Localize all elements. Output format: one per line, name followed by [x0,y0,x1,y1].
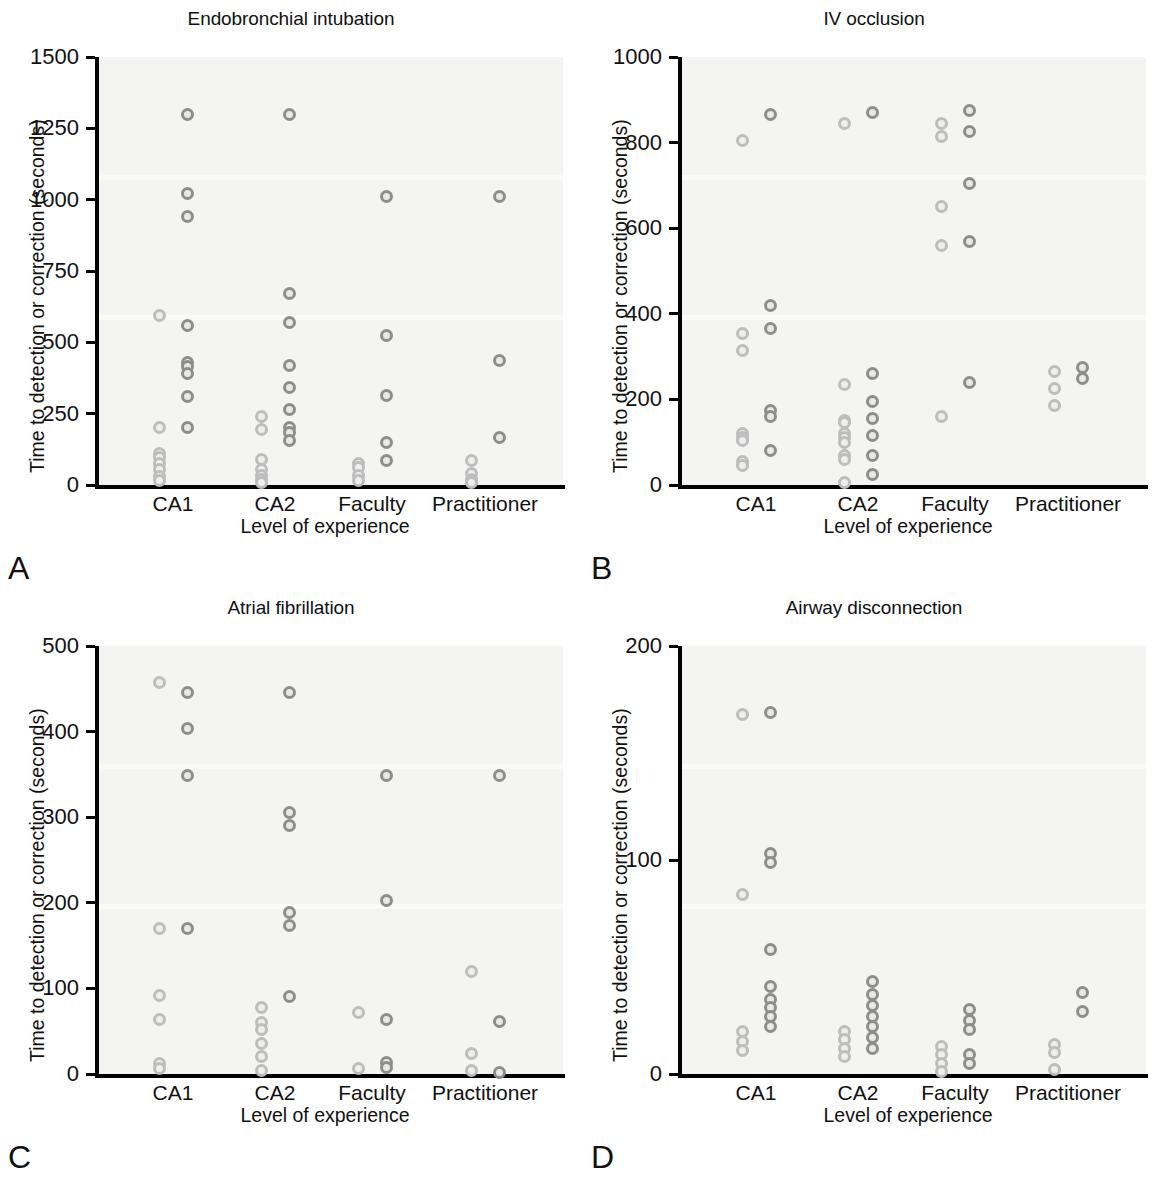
data-point [866,975,879,988]
data-point [764,410,777,423]
data-point [838,378,851,391]
data-point [1048,399,1061,412]
data-point [866,1042,879,1055]
data-point [866,395,879,408]
data-point [153,1062,166,1075]
y-tick-label: 800 [583,132,662,154]
data-point [153,676,166,689]
data-point [380,894,393,907]
data-point [838,117,851,130]
data-point [181,769,194,782]
y-tick-mark [86,1073,95,1076]
data-point [255,410,268,423]
data-point [935,239,948,252]
panel-b-y-axis-line [678,57,682,488]
data-point [866,468,879,481]
data-point [838,436,851,449]
data-point [465,476,478,489]
data-point [838,453,851,466]
data-point [1076,1005,1089,1018]
data-point [1048,1063,1061,1076]
data-point [255,1001,268,1014]
panel-b: IV occlusion Time to detection or correc… [583,0,1165,589]
data-point [493,354,506,367]
y-tick-label: 100 [0,977,79,999]
panel-c: Atrial fibrillation Time to detection or… [0,589,582,1178]
data-point [493,190,506,203]
data-point [465,1047,478,1060]
data-point [493,769,506,782]
y-tick-mark [86,56,95,59]
data-point [380,190,393,203]
panel-b-y-axis-title: Time to detection or correction (seconds… [609,119,632,473]
data-point [764,444,777,457]
data-point [736,459,749,472]
data-point [736,434,749,447]
panel-a-plot-inner [98,57,563,485]
data-point [1076,372,1089,385]
data-point [283,434,296,447]
data-point [153,1013,166,1026]
data-point [465,965,478,978]
scan-band [98,764,563,769]
data-point [153,989,166,1002]
data-point [352,474,365,487]
data-point [465,454,478,467]
y-tick-mark [86,816,95,819]
data-point [935,1065,948,1078]
panel-a-title: Endobronchial intubation [0,8,582,30]
data-point [1048,382,1061,395]
data-point [380,769,393,782]
y-tick-label: 200 [0,892,79,914]
panel-a-letter: A [8,552,29,584]
data-point [283,287,296,300]
y-tick-label: 400 [0,721,79,743]
data-point [181,187,194,200]
data-point [736,888,749,901]
x-tick-label-practitioner: Practitioner [993,493,1143,514]
data-point [255,1050,268,1063]
panel-c-y-axis-title: Time to detection or correction (seconds… [26,708,49,1062]
y-tick-mark [669,312,678,315]
data-point [181,210,194,223]
panel-b-x-axis-title: Level of experience [678,515,1138,538]
data-point [255,1023,268,1036]
scan-band [98,175,563,180]
data-point [283,686,296,699]
y-tick-label: 200 [583,635,662,657]
panel-b-letter: B [591,552,612,584]
data-point [493,1015,506,1028]
y-tick-mark [669,645,678,648]
data-point [181,319,194,332]
y-tick-label: 100 [583,849,662,871]
data-point [1048,365,1061,378]
panel-a: Endobronchial intubation Time to detecti… [0,0,582,589]
panel-d: Airway disconnection Time to detection o… [583,589,1165,1178]
data-point [255,476,268,489]
data-point [866,106,879,119]
scan-band [681,904,1146,909]
data-point [1048,1046,1061,1059]
data-point [181,108,194,121]
panel-b-x-axis-line [678,485,1148,489]
data-point [255,1064,268,1077]
data-point [866,367,879,380]
data-point [493,431,506,444]
data-point [283,819,296,832]
data-point [255,423,268,436]
data-point [866,449,879,462]
y-tick-mark [669,859,678,862]
y-tick-mark [86,270,95,273]
y-tick-mark [86,341,95,344]
y-tick-mark [86,412,95,415]
y-tick-label: 300 [0,806,79,828]
y-tick-label: 200 [583,388,662,410]
panel-c-plot-inner [98,646,563,1074]
scan-band [681,764,1146,769]
y-tick-mark [86,645,95,648]
data-point [963,1023,976,1036]
panel-d-letter: D [591,1141,614,1173]
y-tick-mark [669,141,678,144]
y-tick-mark [86,127,95,130]
y-tick-mark [86,730,95,733]
